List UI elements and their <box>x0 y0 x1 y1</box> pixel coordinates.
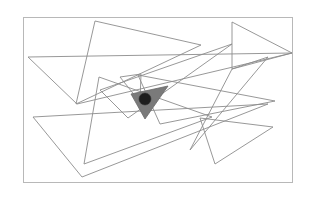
triangle-right-slanted <box>190 57 268 150</box>
triangle-lower-left-large <box>33 104 268 177</box>
triangle-diagram <box>0 0 310 198</box>
triangle-top-left <box>76 21 201 104</box>
triangle-top-right <box>232 22 292 69</box>
query-point <box>139 93 151 105</box>
